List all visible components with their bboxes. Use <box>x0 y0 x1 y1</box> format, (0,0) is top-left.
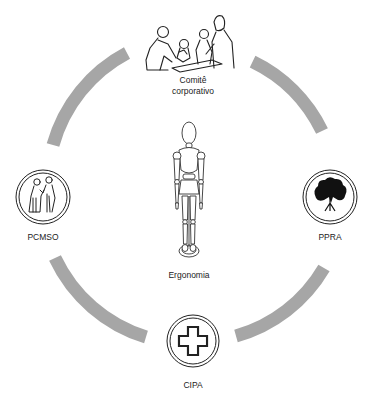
center-label-ergonomia: Ergonomia <box>168 270 209 281</box>
wooden-mannequin-icon <box>0 0 379 405</box>
cycle-diagram: Comitê corporativo PCMSO PPRA <box>0 0 379 405</box>
